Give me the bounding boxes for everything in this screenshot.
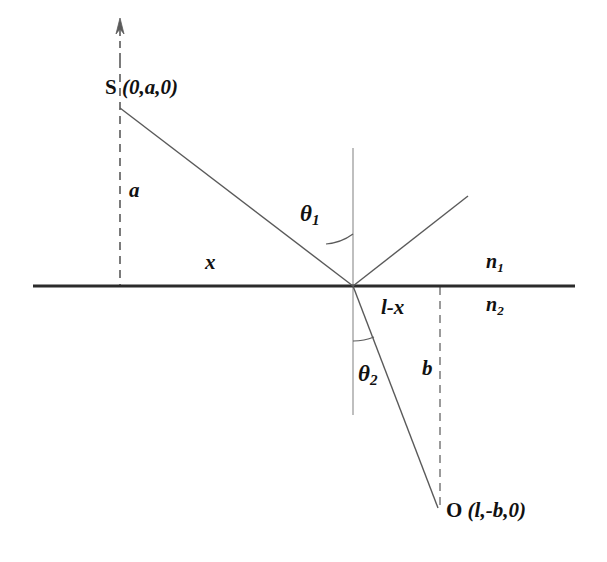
observer-point-label: O (l,-b,0) — [446, 500, 526, 521]
observer-point-name: O — [446, 498, 462, 522]
refraction-diagram: S (0,a,0) a x θ1 θ2 l-x b n1 n2 O (l,-b,… — [0, 0, 607, 562]
n1-symbol: n — [486, 250, 497, 272]
diagram-canvas — [0, 0, 607, 562]
observer-point-coords: (l,-b,0) — [468, 498, 526, 522]
distance-x-label: x — [205, 252, 216, 273]
theta2-symbol: θ — [358, 361, 370, 386]
incident-ray — [120, 108, 353, 286]
refracted-ray — [353, 286, 438, 508]
n1-subscript: 1 — [497, 260, 504, 275]
refractive-index-n1-label: n1 — [486, 251, 504, 274]
angle-theta2-arc — [353, 337, 374, 341]
source-point-label: S (0,a,0) — [105, 77, 178, 98]
reflected-ray — [353, 196, 468, 286]
theta1-symbol: θ — [300, 201, 312, 226]
angle-theta2-label: θ2 — [358, 362, 378, 387]
height-a-label: a — [129, 180, 140, 201]
depth-b-label: b — [422, 358, 433, 379]
theta1-subscript: 1 — [312, 211, 320, 228]
angle-theta1-label: θ1 — [300, 202, 320, 227]
n2-subscript: 2 — [497, 303, 504, 318]
source-point-name: S — [105, 75, 117, 99]
angle-theta1-arc — [326, 234, 353, 244]
distance-l-minus-x-label: l-x — [381, 297, 404, 318]
refractive-index-n2-label: n2 — [486, 294, 504, 317]
source-point-coords: (0,a,0) — [122, 75, 178, 99]
theta2-subscript: 2 — [370, 371, 378, 388]
n2-symbol: n — [486, 293, 497, 315]
y-axis-arrow-icon — [116, 18, 124, 60]
